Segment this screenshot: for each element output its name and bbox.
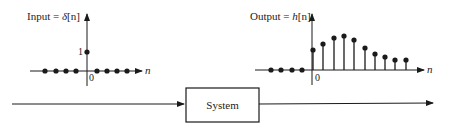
sample-dot [114, 68, 119, 73]
input-origin-label: 0 [89, 72, 94, 83]
stem-dot [341, 33, 346, 38]
sample-dot [73, 68, 78, 73]
sample-dot [299, 67, 304, 72]
output-n-label: n [427, 63, 433, 75]
stem-dot [320, 41, 325, 46]
sample-dot [278, 67, 283, 72]
impulse-dot [84, 49, 89, 54]
sample-dot [289, 67, 294, 72]
input-label-arg: [n] [67, 10, 80, 22]
sample-dot [94, 68, 99, 73]
input-label: Input = δ[n] [27, 10, 80, 22]
output-stems [310, 33, 408, 70]
sample-dot [124, 68, 129, 73]
system-flow: System [12, 88, 433, 122]
stem-dot [382, 54, 387, 59]
stem-dot [351, 37, 356, 42]
sample-dot [63, 68, 68, 73]
system-label: System [206, 99, 239, 111]
output-label: Output = h[n] [250, 10, 311, 22]
sample-dot [42, 68, 47, 73]
stem-dot [362, 45, 367, 50]
input-samples [42, 49, 129, 73]
stem-dot [372, 51, 377, 56]
impulse-response-diagram: Input = δ[n] n 0 1 Output = h[n] n 0 [0, 0, 449, 130]
sample-dot [104, 68, 109, 73]
input-y-tick-1: 1 [78, 46, 83, 57]
sample-dot [268, 67, 273, 72]
output-origin-label: 0 [315, 72, 320, 83]
stem-dot [310, 47, 315, 52]
stem-dot [392, 57, 397, 62]
input-plot: Input = δ[n] n 0 1 [27, 10, 151, 86]
stem-dot [331, 35, 336, 40]
output-label-arg: [n] [298, 10, 311, 22]
input-n-label: n [145, 64, 151, 76]
output-arrow [259, 103, 433, 104]
stem-dot [403, 57, 408, 62]
output-plot: Output = h[n] n 0 [250, 10, 433, 85]
sample-dot [53, 68, 58, 73]
